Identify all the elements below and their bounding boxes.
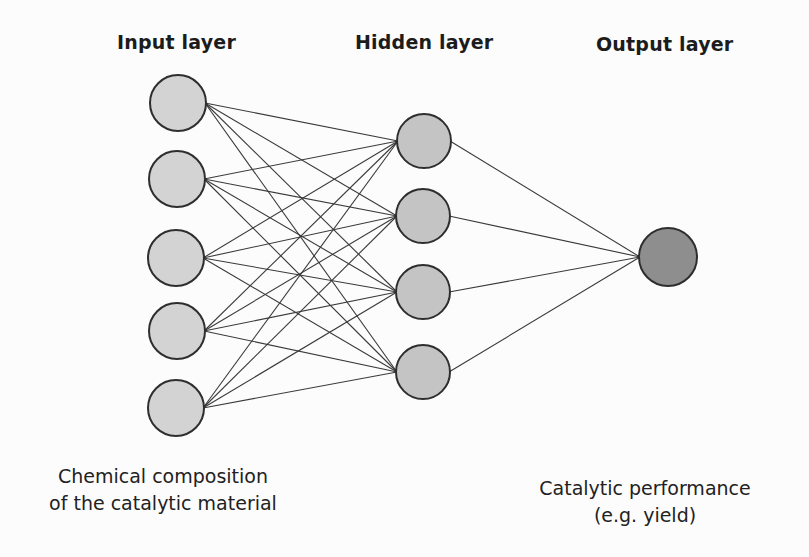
input-caption: Chemical composition of the catalytic ma… (18, 463, 308, 517)
hidden-node-2 (396, 189, 450, 243)
connection-input4-hidden4 (204, 331, 397, 372)
hidden-layer-title: Hidden layer (355, 31, 493, 53)
connection-input4-hidden1 (204, 141, 398, 331)
connection-input2-hidden2 (204, 179, 397, 216)
connection-input1-hidden4 (205, 103, 397, 372)
neural-network-diagram: Input layer Hidden layer Output layer Ch… (0, 0, 809, 557)
output-caption-line-2: (e.g. yield) (505, 502, 785, 529)
connection-input5-hidden2 (203, 216, 397, 408)
hidden-node-4 (396, 345, 450, 399)
output-caption: Catalytic performance (e.g. yield) (505, 475, 785, 529)
connection-input5-hidden3 (203, 292, 397, 408)
output-caption-line-1: Catalytic performance (505, 475, 785, 502)
input-layer-title: Input layer (117, 31, 236, 53)
input-node-3 (148, 230, 204, 286)
output-node-1 (639, 228, 697, 286)
hidden-node-1 (397, 114, 451, 168)
connection-input4-hidden2 (204, 216, 397, 331)
input-node-2 (149, 151, 205, 207)
input-node-1 (150, 75, 206, 131)
connection-input2-hidden1 (204, 141, 398, 179)
connection-input5-hidden1 (203, 141, 398, 408)
hidden-node-3 (396, 265, 450, 319)
input-node-4 (149, 303, 205, 359)
output-layer-title: Output layer (596, 33, 733, 55)
connection-hidden1-output1 (450, 141, 640, 257)
connection-input1-hidden1 (205, 103, 398, 141)
input-caption-line-1: Chemical composition (18, 463, 308, 490)
input-node-5 (148, 380, 204, 436)
connection-hidden2-output1 (449, 216, 640, 257)
neurons (148, 75, 697, 436)
input-caption-line-2: of the catalytic material (18, 490, 308, 517)
